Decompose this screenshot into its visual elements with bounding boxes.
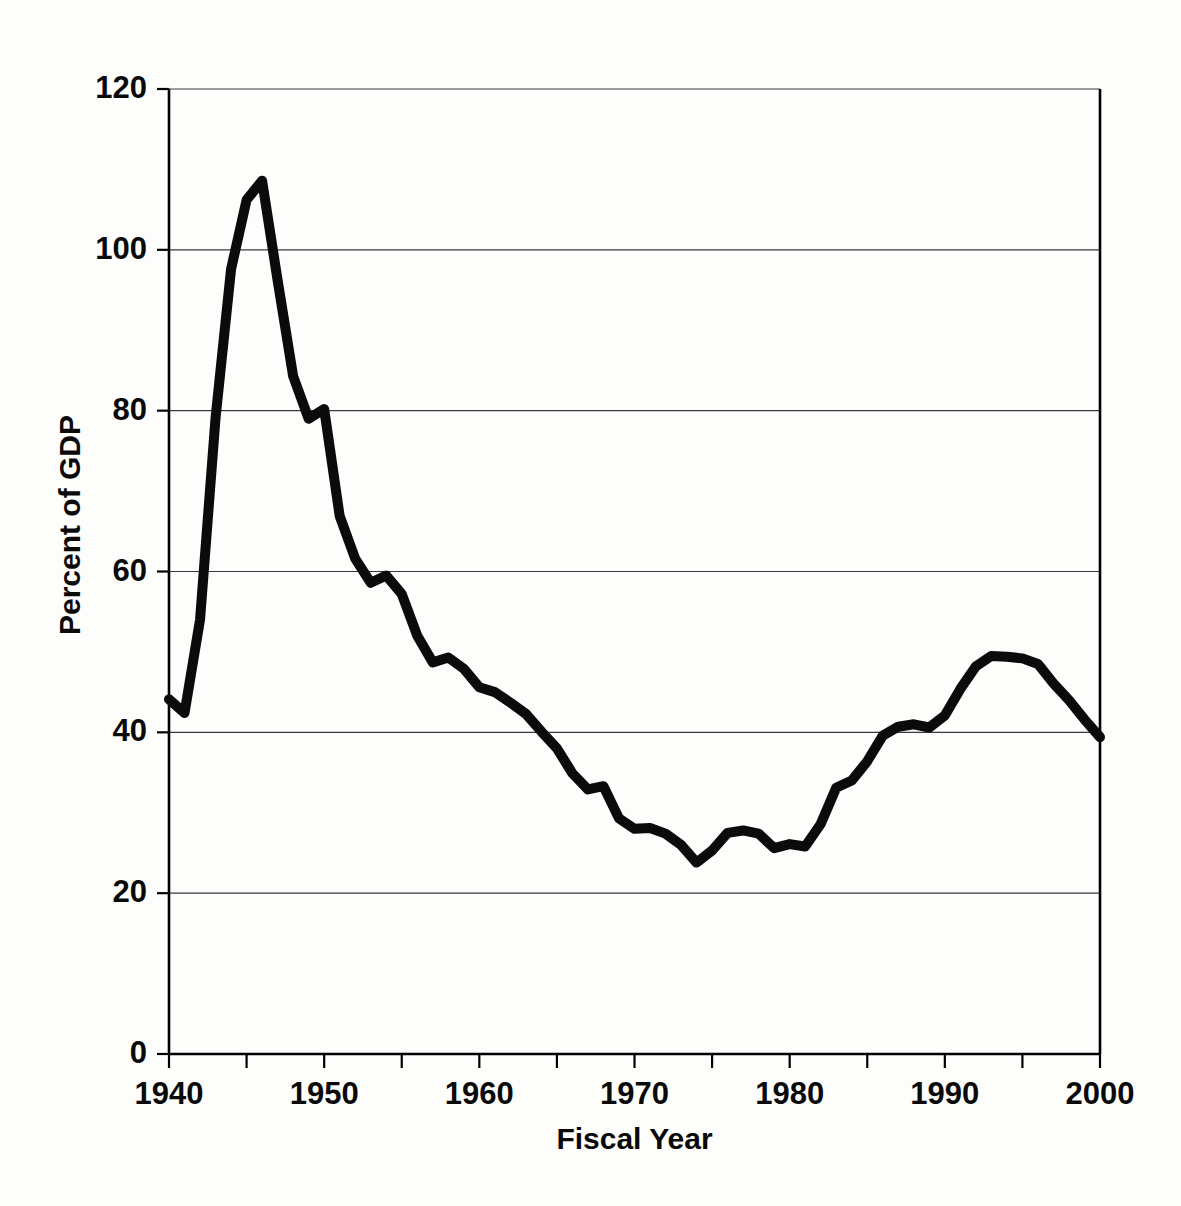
y-tick-label-60: 60 [0, 553, 147, 589]
x-tick-label-1980: 1980 [730, 1076, 850, 1112]
y-tick-label-120: 120 [0, 70, 147, 106]
x-tick-label-1940: 1940 [109, 1076, 229, 1112]
x-axis-title: Fiscal Year [169, 1122, 1100, 1156]
y-tick-label-0: 0 [0, 1035, 147, 1071]
x-tick-label-1990: 1990 [885, 1076, 1005, 1112]
axis-ticks-group [157, 89, 1100, 1068]
gridlines-group [169, 89, 1100, 893]
y-tick-label-40: 40 [0, 713, 147, 749]
data-series-line [169, 181, 1100, 863]
y-tick-label-100: 100 [0, 231, 147, 267]
y-axis-title: Percent of GDP [53, 395, 87, 655]
x-tick-label-1960: 1960 [419, 1076, 539, 1112]
chart-figure: Percent of GDP Fiscal Year 0204060801001… [0, 0, 1181, 1206]
y-tick-label-80: 80 [0, 392, 147, 428]
x-tick-label-2000: 2000 [1040, 1076, 1160, 1112]
x-tick-label-1950: 1950 [264, 1076, 384, 1112]
chart-plot-area [0, 0, 1181, 1206]
x-tick-label-1970: 1970 [575, 1076, 695, 1112]
y-tick-label-20: 20 [0, 874, 147, 910]
